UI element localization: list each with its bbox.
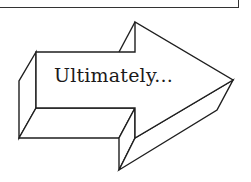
arrow-label: Ultimately...: [54, 64, 214, 86]
arrow-bottom-face: [19, 108, 135, 138]
arrow-3d-icon: [0, 0, 251, 182]
